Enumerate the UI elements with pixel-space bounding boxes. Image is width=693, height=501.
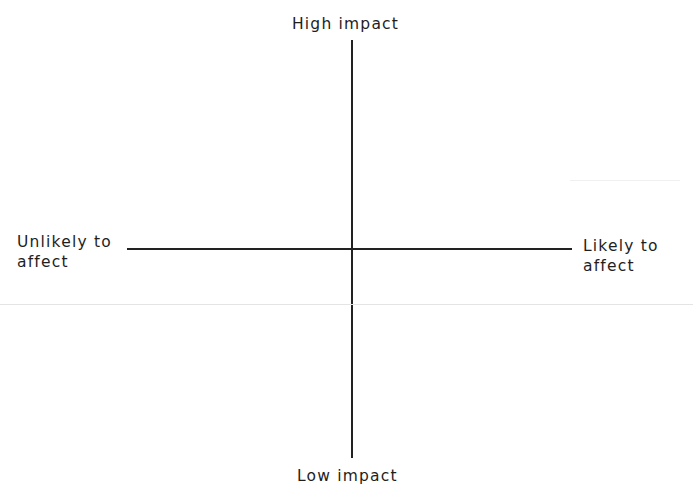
- label-high-impact: High impact: [292, 14, 399, 34]
- label-unlikely-to-affect: Unlikely to affect: [17, 232, 112, 272]
- label-likely-line2: affect: [583, 256, 659, 276]
- label-low-impact: Low impact: [297, 466, 398, 486]
- label-unlikely-line2: affect: [17, 252, 112, 272]
- faint-scan-line-upper: [570, 180, 680, 181]
- label-likely-line1: Likely to: [583, 236, 659, 256]
- label-likely-to-affect: Likely to affect: [583, 236, 659, 276]
- label-unlikely-line1: Unlikely to: [17, 232, 112, 252]
- faint-scan-line: [0, 304, 693, 305]
- horizontal-axis: [127, 248, 572, 250]
